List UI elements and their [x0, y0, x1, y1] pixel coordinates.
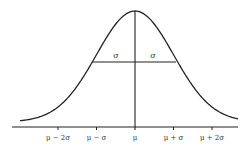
x-tick-label: μ − σ — [87, 134, 107, 142]
x-tick-label: μ — [133, 134, 138, 142]
x-tick-label: μ − 2σ — [46, 134, 70, 142]
sigma-label-right: σ — [150, 51, 156, 60]
sigma-label-left: σ — [113, 51, 119, 60]
normal-distribution-diagram: μ − 2σμ − σμμ + σμ + 2σ σ σ — [0, 0, 250, 152]
bell-curve — [20, 11, 238, 121]
x-tick-label: μ + σ — [164, 134, 184, 142]
x-tick-label: μ + 2σ — [200, 134, 224, 142]
